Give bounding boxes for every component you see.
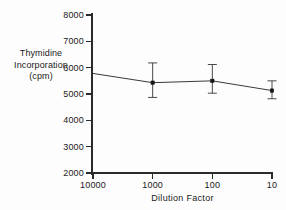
data-point-marker bbox=[270, 89, 273, 92]
data-point-marker bbox=[151, 81, 154, 84]
data-series-layer bbox=[0, 0, 286, 210]
chart-figure: 8000700060005000400030002000 10000100010… bbox=[0, 0, 286, 210]
data-point-marker bbox=[211, 79, 214, 82]
series-line bbox=[93, 73, 272, 90]
